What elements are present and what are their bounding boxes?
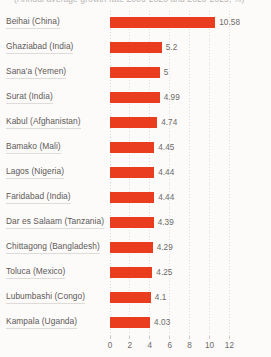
bar-row: Sana'a (Yemen)5 bbox=[0, 61, 271, 86]
category-label: Beihai (China) bbox=[6, 16, 60, 29]
bar bbox=[110, 217, 154, 228]
bar-value-label: 10.58 bbox=[219, 17, 240, 28]
x-tick-mark bbox=[189, 336, 190, 339]
bar-value-label: 4.74 bbox=[161, 117, 177, 128]
bar-value-label: 4.03 bbox=[154, 317, 170, 328]
bar bbox=[110, 142, 154, 153]
category-label: Kabul (Afghanistan) bbox=[6, 116, 81, 129]
x-tick-label: 0 bbox=[108, 341, 113, 351]
x-tick-label: 6 bbox=[167, 341, 172, 351]
bar-value-label: 4.99 bbox=[164, 92, 180, 103]
category-label: Sana'a (Yemen) bbox=[6, 66, 66, 79]
category-label: Toluca (Mexico) bbox=[6, 266, 65, 279]
bar-value-label: 4.39 bbox=[158, 217, 174, 228]
bar-row: Bamako (Mali)4.45 bbox=[0, 136, 271, 161]
bar-row: Kampala (Uganda)4.03 bbox=[0, 311, 271, 336]
bar-chart: (Annual average growth rate 2006-2020 an… bbox=[0, 0, 271, 357]
bar-value-label: 4.25 bbox=[156, 267, 172, 278]
bar bbox=[110, 17, 215, 28]
category-label: Kampala (Uganda) bbox=[6, 316, 77, 329]
category-label: Dar es Salaam (Tanzania) bbox=[6, 216, 104, 229]
bar bbox=[110, 192, 154, 203]
bar bbox=[110, 267, 152, 278]
category-label: Bamako (Mali) bbox=[6, 141, 61, 154]
bar-value-label: 4.29 bbox=[157, 242, 173, 253]
x-tick-mark bbox=[209, 336, 210, 339]
bar-rows: Beihai (China)10.58Ghaziabad (India)5.2S… bbox=[0, 11, 271, 336]
category-label: Chittagong (Bangladesh) bbox=[6, 241, 100, 254]
x-tick-mark bbox=[110, 336, 111, 339]
x-tick-mark bbox=[169, 336, 170, 339]
bar-row: Beihai (China)10.58 bbox=[0, 11, 271, 36]
x-tick-label: 8 bbox=[187, 341, 192, 351]
bar bbox=[110, 92, 160, 103]
bar bbox=[110, 242, 153, 253]
bar-value-label: 5.2 bbox=[166, 42, 178, 53]
bar bbox=[110, 292, 151, 303]
category-label: Lagos (Nigeria) bbox=[6, 166, 64, 179]
x-tick-label: 2 bbox=[128, 341, 133, 351]
bar-row: Kabul (Afghanistan)4.74 bbox=[0, 111, 271, 136]
x-tick-mark bbox=[229, 336, 230, 339]
bar-value-label: 4.45 bbox=[158, 142, 174, 153]
x-tick-mark bbox=[129, 336, 130, 339]
bar-value-label: 4.44 bbox=[158, 192, 174, 203]
bar-row: Ghaziabad (India)5.2 bbox=[0, 36, 271, 61]
bar bbox=[110, 42, 162, 53]
bar-row: Faridabad (India)4.44 bbox=[0, 186, 271, 211]
bar bbox=[110, 67, 160, 78]
plot-area: Beihai (China)10.58Ghaziabad (India)5.2S… bbox=[0, 11, 271, 336]
bar bbox=[110, 117, 157, 128]
bar-value-label: 4.44 bbox=[158, 167, 174, 178]
category-label: Ghaziabad (India) bbox=[6, 41, 73, 54]
x-tick-label: 4 bbox=[148, 341, 153, 351]
bar-row: Lubumbashi (Congo)4.1 bbox=[0, 286, 271, 311]
x-tick-label: 12 bbox=[225, 341, 234, 351]
category-label: Faridabad (India) bbox=[6, 191, 71, 204]
x-tick-mark bbox=[149, 336, 150, 339]
bar-row: Dar es Salaam (Tanzania)4.39 bbox=[0, 211, 271, 236]
bar-value-label: 4.1 bbox=[155, 292, 167, 303]
category-label: Surat (India) bbox=[6, 91, 53, 104]
category-label: Lubumbashi (Congo) bbox=[6, 291, 85, 304]
bar-row: Toluca (Mexico)4.25 bbox=[0, 261, 271, 286]
bar-row: Surat (India)4.99 bbox=[0, 86, 271, 111]
bar bbox=[110, 167, 154, 178]
bar-value-label: 5 bbox=[164, 67, 169, 78]
bar-row: Chittagong (Bangladesh)4.29 bbox=[0, 236, 271, 261]
x-tick-label: 10 bbox=[205, 341, 214, 351]
bar-row: Lagos (Nigeria)4.44 bbox=[0, 161, 271, 186]
chart-title: (Annual average growth rate 2006-2020 an… bbox=[14, 0, 264, 4]
x-axis: 024681012 bbox=[0, 336, 271, 357]
bar bbox=[110, 317, 150, 328]
